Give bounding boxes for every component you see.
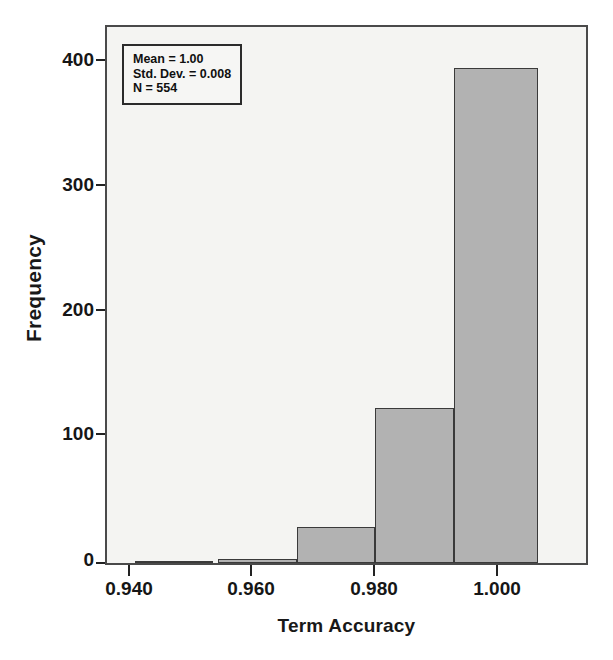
y-tick-mark-0 (96, 562, 105, 564)
x-axis-title: Term Accuracy (105, 615, 588, 637)
x-tick-label-0980: 0.980 (329, 578, 419, 600)
plot-area (107, 27, 586, 563)
x-axis-tick-marks (105, 565, 588, 577)
histogram-figure: Frequency 400 300 200 100 0 Mean = 1.00 … (0, 0, 613, 660)
x-tick-label-0940: 0.940 (84, 578, 174, 600)
y-tick-label-200: 200 (34, 299, 94, 321)
histogram-bar-4 (375, 408, 454, 563)
y-tick-mark-300 (96, 184, 105, 186)
statistics-box: Mean = 1.00 Std. Dev. = 0.008 N = 554 (122, 44, 242, 105)
x-tick-mark-0960 (250, 565, 252, 576)
x-tick-label-1000: 1.000 (452, 578, 542, 600)
y-tick-label-0: 0 (34, 549, 94, 571)
histogram-bar-1 (135, 561, 214, 564)
x-tick-mark-1000 (496, 565, 498, 576)
y-axis-tick-labels: 400 300 200 100 0 (32, 0, 94, 660)
x-tick-mark-0980 (373, 565, 375, 576)
x-axis-tick-labels: 0.940 0.960 0.980 1.000 (105, 578, 588, 604)
y-tick-label-400: 400 (34, 49, 94, 71)
x-tick-mark-0940 (128, 565, 130, 576)
histogram-bar-3 (297, 527, 376, 563)
stats-n-label: N = 554 (133, 81, 231, 96)
x-tick-label-0960: 0.960 (206, 578, 296, 600)
stats-mean-label: Mean = 1.00 (133, 52, 231, 67)
histogram-bar-2 (218, 559, 297, 563)
plot-frame: Mean = 1.00 Std. Dev. = 0.008 N = 554 (105, 25, 588, 565)
histogram-bar-5 (454, 68, 538, 563)
y-tick-mark-200 (96, 309, 105, 311)
stats-stddev-label: Std. Dev. = 0.008 (133, 67, 231, 82)
y-tick-label-100: 100 (34, 423, 94, 445)
y-tick-mark-400 (96, 59, 105, 61)
y-tick-label-300: 300 (34, 174, 94, 196)
y-tick-mark-100 (96, 433, 105, 435)
